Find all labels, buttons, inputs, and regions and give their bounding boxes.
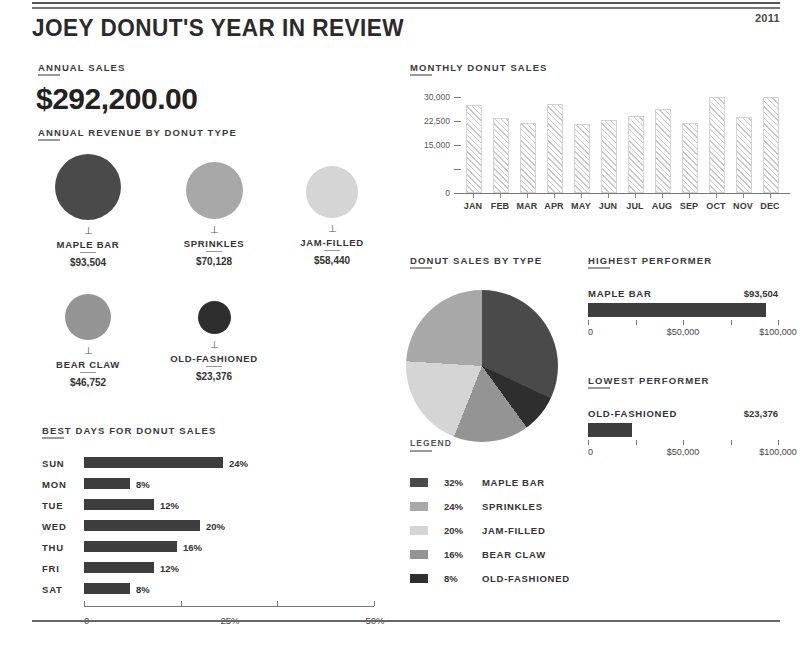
highest-performer-heading: HIGHEST PERFORMER [588,255,712,266]
highest-performer-axis-label: 0 [588,327,608,337]
legend-name: JAM-FILLED [482,525,545,536]
day-value: 20% [206,521,225,532]
legend-heading: LEGEND [410,438,452,448]
highest-performer-bar [588,303,766,317]
legend-percent: 24% [444,501,463,512]
x-axis-tick-icon [743,194,744,198]
bubble-underline [324,250,340,251]
monthly-bar [601,120,617,193]
highest-performer-axis-tick-icon [778,320,779,325]
bubble-tick-icon: ⊥ [210,340,219,350]
legend-underline [410,450,432,452]
day-label: SUN [42,458,64,469]
y-axis-tick-icon [454,97,461,98]
y-axis-tick-icon [454,169,461,170]
footer-rule [32,620,780,622]
lowest-performer-name: OLD-FASHIONED [588,408,677,419]
lowest-performer-axis-label: 0 [588,447,608,457]
bubble-tick-icon: ⊥ [84,346,93,356]
monthly-bar [520,123,536,193]
x-axis-tick-icon [527,194,528,198]
revenue-bubble [198,301,231,334]
day-bar [84,520,200,531]
lowest-performer-underline [588,387,610,389]
annual-sales-heading: ANNUAL SALES [38,62,125,73]
day-bar [84,457,223,468]
lowest-performer-bar [588,423,632,437]
bubble-value: $93,504 [18,257,158,268]
annual-sales-value: $292,200.00 [36,82,197,116]
header-rule-top-second [32,7,780,9]
x-axis-tick-icon [554,194,555,198]
legend-name: SPRINKLES [482,501,543,512]
x-axis-tick-icon [662,194,663,198]
monthly-bar [628,116,644,193]
day-value: 16% [183,542,202,553]
day-value: 24% [229,458,248,469]
day-label: WED [42,521,67,532]
bubble-name: MAPLE BAR [18,239,158,250]
highest-performer-name: MAPLE BAR [588,288,652,299]
day-bar [84,583,130,594]
bubble-name: JAM-FILLED [262,237,402,248]
day-bar [84,541,177,552]
bubble-tick-icon: ⊥ [328,224,337,234]
best-days-underline [42,437,64,439]
day-bar [84,478,130,489]
highest-performer-axis-label: $50,000 [649,327,717,337]
monthly-bar [493,118,509,193]
legend-name: OLD-FASHIONED [482,573,570,584]
bubble-underline [80,372,96,373]
lowest-performer-heading: LOWEST PERFORMER [588,375,710,386]
x-axis-line [458,193,790,194]
legend-name: BEAR CLAW [482,549,546,560]
lowest-performer-axis-tick-icon [731,440,732,445]
bubble-name: BEAR CLAW [18,359,158,370]
best-days-axis-tick-icon [374,601,375,606]
x-axis-month-label: DEC [754,201,786,211]
pie-underline [410,267,432,269]
legend-percent: 8% [444,573,458,584]
annual-sales-underline [38,74,60,76]
x-axis-tick-icon [689,194,690,198]
y-axis-tick-label: 22,500 [404,116,450,126]
lowest-performer-axis-tick-icon [683,440,684,445]
highest-performer-axis-tick-icon [731,320,732,325]
highest-performer-axis-label: $100,000 [744,327,812,337]
monthly-bar [655,109,671,193]
y-axis-tick-label: 30,000 [404,92,450,102]
day-label: SAT [42,584,63,595]
highest-performer-axis-tick-icon [683,320,684,325]
bubble-value: $58,440 [262,255,402,266]
y-axis-tick-icon [454,145,461,146]
best-days-axis-line [84,606,374,607]
day-value: 12% [160,563,179,574]
best-days-axis-tick-icon [84,601,85,606]
monthly-bar [682,123,698,193]
x-axis-tick-icon [500,194,501,198]
legend-swatch [410,502,428,511]
monthly-sales-heading: MONTHLY DONUT SALES [410,62,548,73]
day-label: MON [42,479,67,490]
bubble-value: $46,752 [18,377,158,388]
best-days-axis-tick-icon [181,601,182,606]
y-axis-tick-label: 15,000 [404,140,450,150]
day-bar [84,562,154,573]
legend-percent: 16% [444,549,463,560]
legend-swatch [410,526,428,535]
day-value: 8% [136,479,150,490]
highest-performer-underline [588,267,610,269]
lowest-performer-axis-tick-icon [588,440,589,445]
best-days-heading: BEST DAYS FOR DONUT SALES [42,425,216,436]
day-bar [84,499,154,510]
bubble-underline [80,252,96,253]
monthly-bar [709,97,725,193]
x-axis-tick-icon [770,194,771,198]
bubble-value: $23,376 [144,371,284,382]
revenue-bubble [306,166,358,218]
bubble-underline [206,366,222,367]
day-value: 12% [160,500,179,511]
bubble-tick-icon: ⊥ [84,226,93,236]
legend-percent: 32% [444,477,463,488]
bubble-name: OLD-FASHIONED [144,353,284,364]
